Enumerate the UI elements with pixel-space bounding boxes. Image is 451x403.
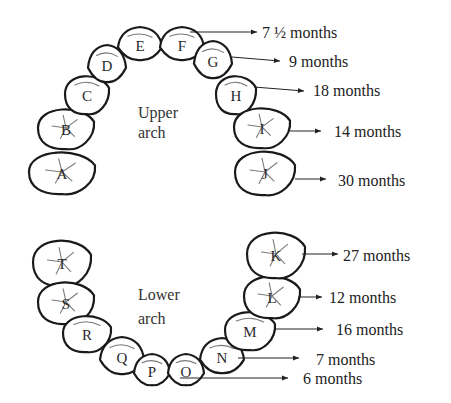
eruption-age-label: 9 months	[289, 53, 348, 70]
tooth-e: E	[118, 27, 162, 60]
upper-arch-label: Upper arch	[138, 104, 179, 141]
arrow-line	[232, 57, 280, 61]
eruption-age-label: 30 months	[338, 172, 405, 189]
eruption-age-label: 18 months	[313, 82, 380, 99]
tooth-letter: N	[217, 350, 228, 366]
eruption-annotation-i: 14 months	[290, 123, 401, 140]
tooth-letter: I	[260, 121, 265, 137]
tooth-letter: K	[271, 248, 282, 264]
tooth-g: G	[194, 41, 232, 78]
eruption-annotation-n: 7 months	[238, 351, 375, 368]
arrow-head-icon	[293, 356, 299, 361]
tooth-letter: S	[62, 296, 70, 312]
eruption-age-label: 6 months	[303, 370, 362, 387]
eruption-age-label: 27 months	[343, 247, 410, 264]
tooth-eruption-diagram: ABCDEFGHIJTSRQPONMLK 7 ½ months9 months1…	[0, 0, 451, 403]
arrow-head-icon	[251, 30, 257, 35]
lower-arch-label-line2: arch	[138, 310, 166, 327]
eruption-age-label: 14 months	[334, 123, 401, 140]
tooth-t: T	[33, 241, 91, 287]
tooth-letter: F	[178, 38, 186, 54]
tooth-b: B	[38, 109, 94, 149]
eruption-annotation-o: 6 months	[180, 370, 362, 387]
tooth-letter: G	[208, 54, 219, 70]
tooth-letter: E	[135, 38, 144, 54]
tooth-letter: Q	[117, 350, 128, 366]
arrow-line	[254, 87, 304, 91]
tooth-letter: A	[57, 166, 68, 182]
eruption-age-label: 16 months	[336, 321, 403, 338]
lower-arch-label-line1: Lower	[138, 286, 180, 303]
tooth-a: A	[29, 152, 95, 194]
teeth-layer: ABCDEFGHIJTSRQPONMLK	[29, 27, 305, 385]
tooth-letter: J	[262, 166, 268, 182]
lower-arch-label: Lower arch	[138, 286, 180, 327]
eruption-annotation-m: 16 months	[276, 321, 403, 338]
tooth-o: O	[168, 354, 204, 385]
eruption-annotation-f: 7 ½ months	[190, 24, 337, 41]
tooth-letter: H	[231, 88, 242, 104]
arrow-head-icon	[282, 376, 288, 381]
eruption-age-label: 12 months	[329, 289, 396, 306]
tooth-l: L	[244, 276, 300, 318]
eruption-age-label: 7 ½ months	[262, 24, 337, 41]
upper-arch-label-line1: Upper	[138, 104, 179, 122]
tooth-letter: C	[82, 88, 92, 104]
eruption-annotation-j: 30 months	[295, 172, 405, 189]
eruption-age-label: 7 months	[316, 351, 375, 368]
tooth-letter: T	[57, 256, 66, 272]
arrow-head-icon	[332, 252, 338, 257]
tooth-letter: P	[148, 364, 156, 380]
tooth-letter: B	[61, 122, 71, 138]
tooth-letter: L	[267, 290, 276, 306]
tooth-j: J	[235, 152, 295, 196]
arrow-head-icon	[316, 295, 322, 300]
arrow-head-icon	[320, 177, 326, 182]
arrow-head-icon	[317, 327, 323, 332]
tooth-p: P	[134, 354, 170, 385]
tooth-i: I	[234, 108, 290, 148]
tooth-k: K	[247, 233, 305, 279]
tooth-letter: M	[243, 324, 256, 340]
tooth-letter: R	[82, 327, 92, 343]
arrow-head-icon	[315, 129, 321, 134]
eruption-annotation-l: 12 months	[298, 289, 396, 306]
upper-arch-label-line2: arch	[138, 124, 166, 141]
eruption-annotation-g: 9 months	[232, 53, 348, 70]
eruption-annotation-k: 27 months	[302, 247, 410, 264]
eruption-annotation-h: 18 months	[254, 82, 380, 99]
tooth-h: H	[216, 76, 256, 114]
tooth-letter: D	[102, 58, 113, 74]
